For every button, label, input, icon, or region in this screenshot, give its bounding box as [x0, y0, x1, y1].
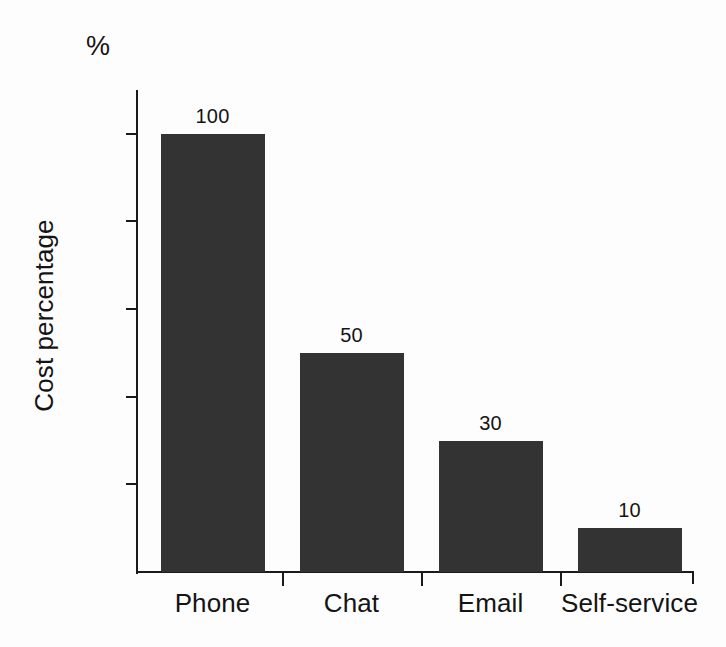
bar-self-service[interactable] [578, 528, 682, 572]
y-axis-unit-label: % [70, 31, 126, 62]
x-tick-1 [282, 573, 284, 586]
y-axis-title: Cost percentage [29, 166, 60, 466]
x-axis-end-tick [692, 571, 694, 584]
x-label-self-service: Self-service [561, 588, 698, 619]
x-tick-3 [560, 573, 562, 586]
bars-layer [137, 90, 693, 572]
y-tick-100 [126, 133, 137, 135]
bar-phone[interactable] [161, 134, 265, 572]
y-tick-20 [126, 483, 137, 485]
y-tick-40 [126, 396, 137, 398]
bar-email[interactable] [439, 441, 543, 572]
bar-value-self-service: 10 [618, 499, 641, 522]
x-label-phone: Phone [175, 588, 251, 619]
x-label-chat: Chat [324, 588, 379, 619]
x-label-email: Email [458, 588, 524, 619]
bar-value-chat: 50 [340, 324, 363, 347]
y-tick-60 [126, 308, 137, 310]
y-tick-80 [126, 220, 137, 222]
bar-value-phone: 100 [196, 105, 230, 128]
bar-value-email: 30 [479, 412, 502, 435]
bar-chart: % Cost percentage 10080604020 100503010 … [0, 0, 726, 647]
bar-chat[interactable] [300, 353, 404, 572]
x-tick-2 [421, 573, 423, 586]
